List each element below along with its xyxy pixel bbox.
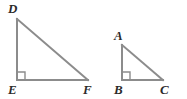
edge-AC <box>122 45 163 80</box>
vertex-label-e: E <box>8 83 17 96</box>
right-angle-marker-e <box>17 72 25 80</box>
vertex-label-d: D <box>8 2 17 15</box>
edge-DF <box>17 19 88 80</box>
vertex-label-b: B <box>114 83 123 96</box>
vertex-label-c: C <box>160 83 169 96</box>
right-angle-marker-b <box>122 72 130 80</box>
geometry-canvas <box>0 0 187 99</box>
triangle-abc <box>122 45 163 80</box>
vertex-label-a: A <box>114 29 123 42</box>
triangle-def <box>17 19 88 80</box>
geometry-figure: D E F A B C <box>0 0 187 99</box>
vertex-label-f: F <box>83 83 92 96</box>
